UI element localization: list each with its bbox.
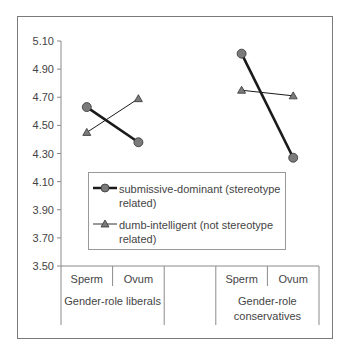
triangle-marker (134, 95, 142, 102)
series-line (87, 107, 139, 142)
circle-marker (134, 138, 143, 147)
x-category-label: Ovum (279, 273, 308, 285)
y-tick-label: 3.50 (33, 260, 54, 272)
legend-item-dumb-intelligent: dumb-intelligent (not stereotype related… (93, 218, 284, 246)
y-tick-label: 4.10 (33, 176, 54, 188)
y-tick-label: 4.90 (33, 63, 54, 75)
legend-item-submissive-dominant: submissive-dominant (stereotype related) (93, 182, 284, 210)
x-group-label: conservatives (234, 310, 302, 322)
y-tick-label: 3.70 (33, 232, 54, 244)
x-category-label: Ovum (124, 273, 153, 285)
circle-marker (237, 49, 246, 58)
y-tick-label: 5.10 (33, 35, 54, 47)
y-tick-label: 3.90 (33, 204, 54, 216)
triangle-marker (83, 128, 91, 135)
x-group-label: Gender-role (238, 295, 297, 307)
circle-marker (82, 103, 91, 112)
series-line (87, 99, 139, 133)
circle-marker-icon (93, 182, 117, 196)
series-line (242, 90, 294, 96)
x-category-label: Sperm (71, 273, 103, 285)
y-tick-label: 4.70 (33, 91, 54, 103)
series-line (242, 54, 294, 158)
triangle-marker (238, 86, 246, 93)
legend: submissive-dominant (stereotype related)… (88, 172, 286, 250)
legend-label: submissive-dominant (stereotype related) (117, 182, 284, 210)
legend-label: dumb-intelligent (not stereotype related… (117, 218, 284, 246)
triangle-marker-icon (93, 218, 117, 232)
circle-marker (289, 153, 298, 162)
x-category-label: Sperm (225, 273, 257, 285)
y-tick-label: 4.30 (33, 148, 54, 160)
x-group-label: Gender-role liberals (64, 295, 161, 307)
y-tick-label: 4.50 (33, 119, 54, 131)
